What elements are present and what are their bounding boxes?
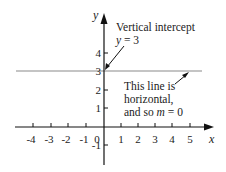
y-axis-label: y <box>92 8 99 22</box>
svg-text:This line is: This line is <box>124 80 176 92</box>
svg-text:3: 3 <box>96 65 102 77</box>
x-axis-label: x <box>208 132 215 146</box>
svg-text:1: 1 <box>96 102 102 114</box>
pointer-arrow-icon <box>107 46 124 67</box>
annotation-slope-zero: This line is horizontal, and so m = 0 <box>124 72 189 118</box>
chart: -4 -3 -2 -1 0 1 2 3 4 5 4 3 2 1 -1 x y V… <box>0 0 226 172</box>
svg-text:-1: -1 <box>79 133 88 145</box>
svg-text:y = 3: y = 3 <box>115 34 139 47</box>
svg-text:horizontal,: horizontal, <box>124 93 174 106</box>
y-axis <box>101 13 108 165</box>
svg-text:Vertical intercept: Vertical intercept <box>116 21 196 34</box>
svg-text:-1: -1 <box>92 139 101 151</box>
svg-text:2: 2 <box>96 84 102 96</box>
y-axis-arrow-icon <box>101 13 108 24</box>
svg-text:4: 4 <box>96 47 102 59</box>
x-axis <box>15 124 214 131</box>
svg-text:-3: -3 <box>44 133 54 145</box>
svg-text:2: 2 <box>135 133 141 145</box>
svg-text:3: 3 <box>152 133 158 145</box>
svg-text:5: 5 <box>187 133 193 145</box>
x-axis-arrow-icon <box>204 124 214 131</box>
svg-text:1: 1 <box>118 133 124 145</box>
x-tick-labels: -4 -3 -2 -1 0 1 2 3 4 5 <box>26 133 193 145</box>
svg-text:and so m = 0: and so m = 0 <box>124 106 183 118</box>
svg-text:4: 4 <box>169 133 175 145</box>
svg-text:-4: -4 <box>26 133 36 145</box>
annotation-vertical-intercept: Vertical intercept y = 3 <box>105 21 196 70</box>
svg-text:-2: -2 <box>61 133 70 145</box>
